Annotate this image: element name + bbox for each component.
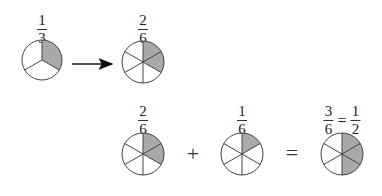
pie-two-sixths-top xyxy=(122,41,164,83)
fraction-pies xyxy=(0,0,382,196)
pie-one-sixth xyxy=(221,133,263,175)
pie-three-sixths xyxy=(321,133,363,175)
pie-two-sixths-bottom xyxy=(122,133,164,175)
pie-one-third xyxy=(22,40,62,80)
